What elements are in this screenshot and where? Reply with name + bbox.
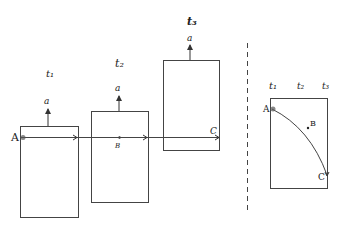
- time-label-2: t₂: [115, 57, 124, 70]
- rp-point-b: B: [310, 119, 316, 128]
- accel-label-1: a: [44, 96, 49, 106]
- point-b-label: B: [114, 142, 120, 150]
- frame-t2: a t₂ B: [92, 57, 149, 203]
- elevator-frame-view: t₁ t₂ t₃ A B C: [262, 80, 330, 189]
- light-source-icon: [21, 135, 26, 140]
- accel-label-3: a: [187, 33, 192, 43]
- curved-light-path: [272, 109, 327, 175]
- rp-time-label-3: t₃: [322, 81, 330, 91]
- point-c-label: C: [210, 126, 217, 136]
- light-source-icon: [271, 107, 276, 112]
- time-label-1: t₁: [46, 68, 54, 79]
- accel-label-2: a: [115, 83, 120, 93]
- rp-point-a: A: [262, 104, 270, 114]
- point-b-dot: [307, 127, 309, 129]
- rp-time-label-2: t₂: [297, 81, 305, 91]
- rp-point-c: C: [318, 172, 325, 182]
- elevator-light-diagram: a t₁ a t₂ B a t₃ A C t₁ t₂ t₃: [0, 0, 342, 226]
- frame-t1: a t₁: [21, 68, 79, 218]
- rp-time-label-1: t₁: [269, 80, 277, 91]
- point-a-label: A: [10, 131, 20, 144]
- time-label-3: t₃: [187, 15, 197, 28]
